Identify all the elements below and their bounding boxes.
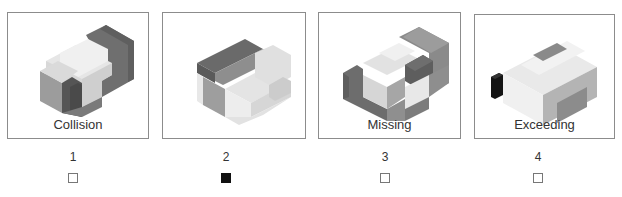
option-caption: Missing [319, 117, 460, 132]
block-image [163, 13, 305, 138]
option-panel-2 [162, 12, 306, 139]
option-panel-3: Missing [318, 12, 461, 139]
option-checkbox-1[interactable] [68, 173, 78, 183]
option-caption: Collision [8, 117, 148, 132]
option-number-3: 3 [375, 150, 395, 164]
option-number-4: 4 [528, 150, 548, 164]
option-checkbox-2[interactable] [221, 173, 231, 183]
option-panel-4: Exceeding [474, 14, 615, 139]
option-checkbox-3[interactable] [380, 173, 390, 183]
option-number-2: 2 [216, 150, 236, 164]
option-checkbox-4[interactable] [533, 173, 543, 183]
option-caption: Exceeding [475, 117, 614, 132]
option-number-1: 1 [63, 150, 83, 164]
option-panel-1: Collision [7, 12, 149, 139]
